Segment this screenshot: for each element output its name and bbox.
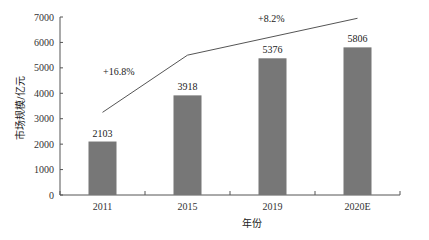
- bar-2015: [174, 95, 202, 195]
- x-tick-label: 2019: [263, 201, 283, 212]
- y-tick-label: 4000: [34, 88, 54, 99]
- trend-line-group: [103, 18, 358, 112]
- bar-2019: [259, 58, 287, 195]
- annotation-cagr-1: +16.8%: [103, 66, 134, 77]
- bar-value-label: 5376: [263, 44, 283, 55]
- data-labels: 2103391853765806: [93, 33, 368, 138]
- bar-value-label: 3918: [178, 81, 198, 92]
- x-tick-label: 2020E: [344, 201, 370, 212]
- annotation-cagr-2: +8.2%: [258, 13, 284, 24]
- y-tick-label: 3000: [34, 113, 54, 124]
- x-tick-label: 2011: [93, 201, 113, 212]
- bar-chart: 01000200030004000500060007000 2011201520…: [0, 0, 429, 240]
- y-tick-label: 7000: [34, 12, 54, 23]
- bar-2020E: [344, 47, 372, 195]
- x-axis-title: 年份: [242, 217, 262, 229]
- y-tick-label: 1000: [34, 164, 54, 175]
- y-tick-label: 2000: [34, 139, 54, 150]
- y-tick-label: 0: [49, 190, 54, 201]
- bar-value-label: 2103: [93, 128, 113, 139]
- y-axis: 01000200030004000500060007000: [34, 12, 63, 201]
- x-tick-label: 2015: [178, 201, 198, 212]
- trend-line: [103, 18, 358, 112]
- bar-2011: [89, 142, 117, 195]
- bar-value-label: 5806: [348, 33, 368, 44]
- y-axis-title: 市场规模/亿元: [14, 76, 26, 139]
- y-tick-label: 5000: [34, 62, 54, 73]
- y-tick-label: 6000: [34, 37, 54, 48]
